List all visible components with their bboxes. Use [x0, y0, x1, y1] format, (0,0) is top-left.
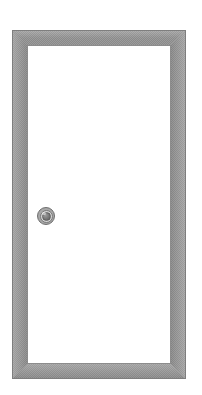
door-leaf[interactable] — [27, 45, 171, 364]
door-knob-highlight — [42, 212, 46, 215]
door-frame-head-jamb — [12, 30, 186, 45]
door-frame-threshold — [12, 364, 186, 379]
door-frame-right-jamb — [171, 30, 186, 379]
door-figure[interactable] — [12, 30, 186, 379]
illustration-canvas — [0, 0, 202, 395]
door-frame-left-jamb — [12, 30, 27, 379]
door-knob-icon[interactable] — [37, 207, 55, 225]
